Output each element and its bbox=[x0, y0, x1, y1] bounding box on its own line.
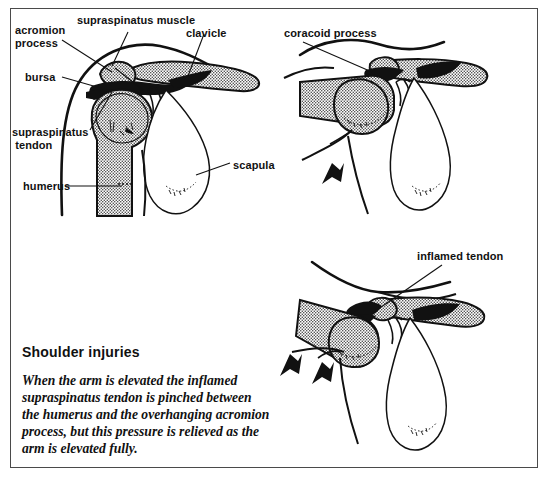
label-humerus: humerus bbox=[23, 180, 70, 193]
shoulder-injuries-figure: acromion process supraspinatus muscle cl… bbox=[0, 0, 549, 478]
label-scapula: scapula bbox=[233, 159, 275, 172]
label-bursa: bursa bbox=[25, 71, 55, 84]
caption-block: Shoulder injuries When the arm is elevat… bbox=[22, 344, 272, 457]
label-supraspinatus-muscle: supraspinatus muscle bbox=[77, 14, 195, 27]
label-clavicle: clavicle bbox=[186, 27, 227, 40]
label-coracoid-process: coracoid process bbox=[284, 27, 377, 40]
caption-title: Shoulder injuries bbox=[22, 344, 272, 360]
label-supraspinatus-tendon: supraspinatus tendon bbox=[12, 126, 89, 152]
label-inflamed-tendon: inflamed tendon bbox=[417, 250, 503, 263]
label-acromion-process: acromion process bbox=[15, 24, 65, 50]
caption-body: When the arm is elevated the inflamed su… bbox=[22, 372, 272, 457]
